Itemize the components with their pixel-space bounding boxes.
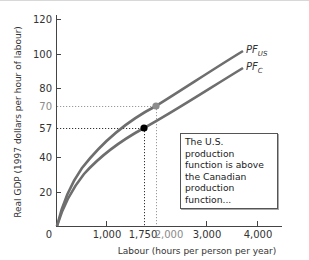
pf-c-label: PFC [246, 61, 263, 75]
x-tick-1000: 1,000 [93, 229, 122, 240]
y-axis-label: Real GDP (1997 dollars per hour of labou… [13, 26, 23, 218]
y-tick-100: 100 [33, 49, 52, 60]
us-point [152, 102, 159, 109]
pf-us-label: PFUS [246, 44, 268, 58]
x-tick-1750: 1,750 [129, 229, 158, 240]
guide-lines [57, 106, 157, 226]
x-tick-3000: 3,000 [193, 229, 222, 240]
production-function-chart: 120 100 80 70 57 40 20 0 1,000 1,750 2,0… [0, 0, 309, 260]
y-tick-120: 120 [33, 14, 52, 25]
y-tick-80: 80 [39, 83, 52, 94]
y-tick-20: 20 [39, 187, 52, 198]
origin-label: 0 [46, 229, 52, 240]
annotation-box: The U.S. production function is above th… [180, 133, 278, 209]
x-tick-4000: 4,000 [244, 229, 273, 240]
x-tick-2000: 2,000 [155, 229, 184, 240]
x-ticks [107, 221, 258, 226]
y-tick-70: 70 [39, 101, 52, 112]
y-tick-57: 57 [39, 123, 52, 134]
y-tick-40: 40 [39, 152, 52, 163]
canada-point [140, 124, 147, 131]
x-axis-label: Labour (hours per person per year) [118, 246, 277, 256]
